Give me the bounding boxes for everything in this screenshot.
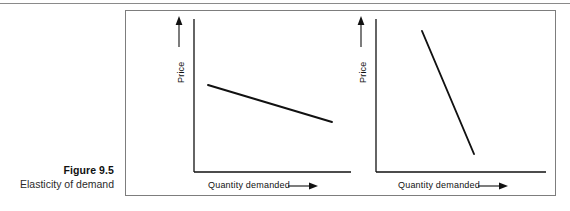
y-axis-label: Price: [358, 61, 368, 83]
figure-frame: Price Quantity demanded Price Quantity d…: [125, 10, 556, 196]
chart-inelastic-plot: [348, 11, 553, 197]
figure-caption: Figure 9.5 Elasticity of demand: [0, 164, 114, 191]
chart-elastic-demand: Price Quantity demanded: [146, 11, 351, 197]
top-divider: [0, 3, 570, 4]
figure-title: Elasticity of demand: [0, 177, 114, 191]
x-axis-label: Quantity demanded: [208, 180, 290, 190]
figure-number: Figure 9.5: [0, 164, 114, 177]
demand-curve-inelastic: [422, 31, 474, 154]
right-arrow-icon: [288, 183, 318, 190]
x-axis-label: Quantity demanded: [398, 180, 480, 190]
right-arrow-icon: [478, 183, 508, 190]
chart-inelastic-demand: Price Quantity demanded: [348, 11, 553, 197]
up-arrow-icon: [358, 16, 365, 47]
demand-curve-elastic: [208, 85, 332, 122]
y-axis-label: Price: [176, 61, 186, 83]
chart-elastic-plot: [146, 11, 351, 197]
up-arrow-icon: [176, 16, 183, 47]
